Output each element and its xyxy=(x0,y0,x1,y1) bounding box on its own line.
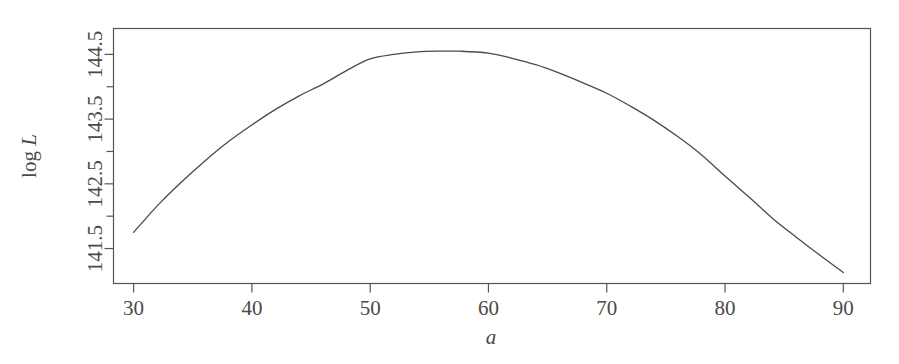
y-tick-label-143.5: 143.5 xyxy=(83,95,107,142)
chart-figure: 141.5142.5143.5144.5 30405060708090 log … xyxy=(0,0,899,364)
y-axis-title-text: log L xyxy=(17,134,41,178)
y-tick-label-142.5: 142.5 xyxy=(83,160,107,207)
x-tick-label-60: 60 xyxy=(478,296,499,320)
x-tick-label-90: 90 xyxy=(833,296,854,320)
x-tick-label-80: 80 xyxy=(715,296,736,320)
y-axis-title-prefix: log xyxy=(17,146,41,178)
x-tick-label-30: 30 xyxy=(123,296,144,320)
y-axis-title-symbol: L xyxy=(17,134,41,147)
y-tick-label-144.5: 144.5 xyxy=(83,31,107,78)
y-axis-title: log L xyxy=(17,134,41,178)
profile-loglikelihood-chart: 141.5142.5143.5144.5 30405060708090 log … xyxy=(0,0,899,364)
x-tick-label-50: 50 xyxy=(360,296,381,320)
x-tick-label-40: 40 xyxy=(241,296,262,320)
x-tick-label-70: 70 xyxy=(596,296,617,320)
y-tick-label-141.5: 141.5 xyxy=(83,225,107,272)
x-axis-title-text: a xyxy=(486,325,497,349)
